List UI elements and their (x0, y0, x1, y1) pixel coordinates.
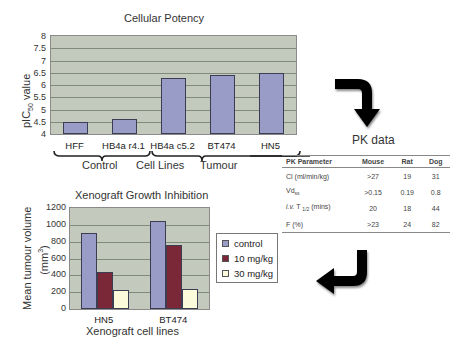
bar-bt474 (210, 75, 235, 134)
y-tick-label: 400 (42, 270, 66, 279)
xeno-x-axis-label: Xenograft cell lines (86, 325, 179, 337)
y-tick-label: 7.5 (26, 44, 46, 53)
y-tick-label: 1200 (42, 203, 66, 212)
y-tick-label: 6.5 (26, 69, 46, 78)
legend-label: 30 mg/kg (234, 268, 273, 279)
legend-item-10mg: 10 mg/kg (217, 251, 277, 266)
legend-label: 10 mg/kg (234, 253, 273, 264)
pk-param: Vdss (282, 184, 353, 200)
y-tick-label: 200 (42, 287, 66, 296)
bar-bt474-2 (182, 289, 198, 309)
pk-rat: 18 (393, 200, 422, 216)
pk-row: Cl (ml/min/kg) >27 19 31 (282, 168, 450, 185)
bar-hb4a-r4.1 (112, 119, 137, 134)
legend-swatch-10mg (222, 255, 229, 262)
y-tick-label: 4 (26, 130, 46, 139)
y-tick-label: 5.5 (26, 93, 46, 102)
xeno-plot-area (69, 207, 210, 310)
y-tick-label: 6 (26, 81, 46, 90)
pk-param-rest: (mins) (309, 203, 330, 210)
y-tick-label: 8 (26, 32, 46, 41)
pk-mouse: >23 (353, 216, 393, 232)
bar-hn5-0 (81, 233, 97, 309)
category-label: HN5 (69, 314, 139, 325)
gridline (51, 48, 296, 49)
pk-param: F (%) (282, 216, 353, 232)
legend-item-control: control (217, 236, 277, 251)
pk-table-container: PK Parameter Mouse Rat Dog Cl (ml/min/kg… (282, 155, 450, 233)
bar-hff (63, 122, 88, 134)
pk-header-dog: Dog (421, 156, 450, 168)
bar-hb4a-c5.2 (161, 78, 186, 134)
pk-param: i.v. T 1/2 (mins) (282, 200, 353, 216)
ylabel-line1: Mean tumour volume (21, 210, 34, 310)
gridline (51, 61, 296, 62)
legend-item-30mg: 30 mg/kg (217, 266, 277, 281)
pk-table: PK Parameter Mouse Rat Dog Cl (ml/min/kg… (282, 156, 450, 232)
pk-mouse: >27 (353, 168, 393, 185)
ylabel-sup: 3 (37, 249, 44, 253)
legend-swatch-30mg (222, 270, 229, 277)
legend-label: control (234, 238, 263, 249)
bar-hn5 (259, 73, 284, 134)
pk-header-param: PK Parameter (282, 156, 353, 168)
potency-title: Cellular Potency (124, 12, 204, 24)
pk-param: Cl (ml/min/kg) (282, 168, 353, 185)
pk-dog: 0.8 (421, 184, 450, 200)
xeno-title: Xenograft Growth Inhibition (75, 189, 208, 201)
pk-header-rat: Rat (393, 156, 422, 168)
pk-header-row: PK Parameter Mouse Rat Dog (282, 156, 450, 168)
pk-mouse: 20 (353, 200, 393, 216)
y-tick-label: 4.5 (26, 118, 46, 127)
xeno-legend: control 10 mg/kg 30 mg/kg (216, 233, 278, 283)
group-label-tumour: Tumour (200, 159, 238, 171)
pk-rat: 19 (393, 168, 422, 185)
pk-dog: 82 (421, 216, 450, 232)
bar-bt474-0 (150, 221, 166, 309)
y-tick-label: 0 (42, 304, 66, 313)
pk-param-main: Vd (286, 187, 295, 194)
pk-mouse: >0.15 (353, 184, 393, 200)
bar-hn5-2 (113, 290, 129, 309)
category-label: BT474 (139, 314, 209, 325)
pk-rat: 24 (393, 216, 422, 232)
curved-arrow-down-icon (330, 75, 390, 135)
pk-row: Vdss >0.15 0.19 0.8 (282, 184, 450, 200)
pk-dog: 44 (421, 200, 450, 216)
pk-data-title: PK data (352, 133, 395, 147)
pk-dog: 31 (421, 168, 450, 185)
y-tick-label: 1000 (42, 220, 66, 229)
pk-rat: 0.19 (393, 184, 422, 200)
ylabel-post: ) (38, 245, 50, 249)
curved-arrow-left-icon (310, 248, 375, 298)
gridline (70, 225, 209, 226)
pk-header-mouse: Mouse (353, 156, 393, 168)
pk-param-sub: ss (295, 191, 300, 197)
bar-bt474-1 (166, 245, 182, 309)
pk-row: F (%) >23 24 82 (282, 216, 450, 232)
legend-swatch-control (222, 240, 229, 247)
y-tick-label: 7 (26, 57, 46, 66)
y-tick-label: 5 (26, 106, 46, 115)
pk-row: i.v. T 1/2 (mins) 20 18 44 (282, 200, 450, 216)
y-tick-label: 800 (42, 237, 66, 246)
y-tick-label: 600 (42, 254, 66, 263)
potency-plot-area (50, 35, 297, 135)
bar-hn5-1 (97, 272, 113, 309)
group-label-control: Control (82, 159, 117, 171)
group-label-cell-lines: Cell Lines (136, 159, 184, 171)
